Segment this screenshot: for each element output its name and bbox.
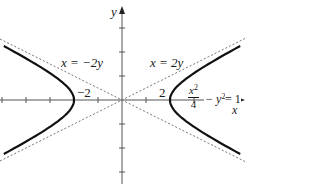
asymptote-label-right: x = 2y	[150, 56, 183, 69]
vertex-label-right: 2	[159, 86, 166, 99]
equation-fraction: x2 4	[188, 84, 199, 110]
y-axis-label: y	[111, 5, 117, 18]
asymptote-label-left: x = −2y	[61, 56, 103, 69]
equation-equals: = 1	[225, 93, 241, 105]
equation-minus-term: − y2	[204, 93, 226, 105]
vertex-label-left: −2	[77, 86, 91, 99]
y-axis-arrow-icon	[119, 6, 125, 14]
